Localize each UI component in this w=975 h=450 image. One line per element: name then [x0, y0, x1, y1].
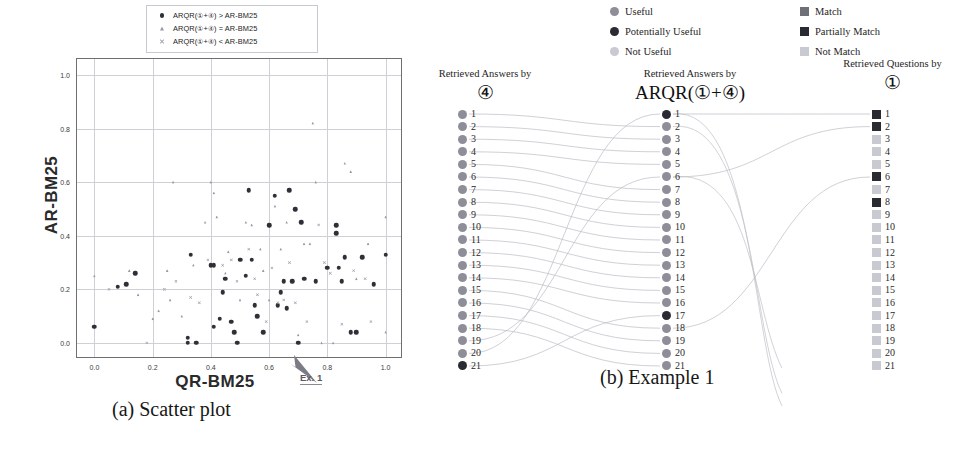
list-item[interactable]: 6: [458, 171, 481, 183]
status-square-icon: [872, 349, 881, 358]
scatter-point: [311, 122, 314, 125]
status-dot-icon: [662, 223, 671, 232]
list-item-number: 18: [885, 323, 895, 333]
gridline-horizontal: [77, 289, 401, 290]
list-item[interactable]: 14: [458, 272, 481, 284]
gridline-vertical: [386, 59, 387, 357]
list-item[interactable]: 3: [662, 133, 685, 145]
list-item[interactable]: 21: [458, 360, 481, 372]
list-item[interactable]: 7: [662, 184, 685, 196]
scatter-point: [185, 341, 190, 346]
list-item[interactable]: 18: [872, 322, 895, 334]
link-curve: [469, 240, 660, 265]
list-item[interactable]: 8: [458, 196, 481, 208]
list-item[interactable]: 1: [662, 108, 685, 120]
list-item[interactable]: 5: [662, 158, 685, 170]
scatter-point: [270, 266, 273, 269]
list-item[interactable]: 20: [872, 347, 895, 359]
list-item[interactable]: 17: [458, 310, 481, 322]
status-square-icon: [872, 311, 881, 320]
scatter-point: [352, 269, 355, 272]
list-item[interactable]: 13: [872, 259, 895, 271]
status-square-icon: [872, 223, 881, 232]
scatter-point: [262, 269, 265, 272]
list-item[interactable]: 13: [662, 259, 685, 271]
list-item[interactable]: 15: [662, 284, 685, 296]
list-item[interactable]: 4: [872, 146, 895, 158]
list-item[interactable]: 6: [662, 171, 685, 183]
list-item[interactable]: 17: [662, 310, 685, 322]
list-item[interactable]: 4: [458, 146, 481, 158]
legend-entry-less: ARQR(①+④) < AR-BM25: [151, 35, 313, 48]
list-item[interactable]: 18: [458, 322, 481, 334]
list-item[interactable]: 2: [458, 121, 481, 133]
list-item-number: 4: [471, 147, 476, 157]
list-item[interactable]: 12: [458, 247, 481, 259]
list-item[interactable]: 15: [458, 284, 481, 296]
list-item[interactable]: 10: [872, 221, 895, 233]
list-item[interactable]: 15: [872, 284, 895, 296]
scatter-point: [288, 261, 291, 264]
list-item[interactable]: 11: [872, 234, 895, 246]
list-item[interactable]: 10: [458, 221, 481, 233]
list-item-number: 18: [471, 323, 481, 333]
column-title-left: ④: [430, 81, 540, 104]
legend-label-equal: ARQR(①+④) = AR-BM25: [173, 24, 258, 33]
list-item[interactable]: 20: [458, 347, 481, 359]
list-item[interactable]: 8: [662, 196, 685, 208]
list-item[interactable]: 2: [872, 121, 895, 133]
list-item[interactable]: 19: [662, 335, 685, 347]
list-item[interactable]: 5: [458, 158, 481, 170]
status-square-icon: [872, 273, 881, 282]
link-curve: [673, 177, 870, 328]
list-item[interactable]: 6: [872, 171, 895, 183]
scatter-point: [384, 216, 387, 219]
list-item[interactable]: 13: [458, 259, 481, 271]
list-item[interactable]: 10: [662, 221, 685, 233]
list-item[interactable]: 14: [662, 272, 685, 284]
list-item[interactable]: 7: [872, 184, 895, 196]
list-item[interactable]: 8: [872, 196, 895, 208]
list-item[interactable]: 4: [662, 146, 685, 158]
list-item[interactable]: 5: [872, 158, 895, 170]
list-item[interactable]: 3: [872, 133, 895, 145]
list-item[interactable]: 12: [872, 247, 895, 259]
list-item[interactable]: 7: [458, 184, 481, 196]
list-item[interactable]: 9: [458, 209, 481, 221]
list-item[interactable]: 19: [458, 335, 481, 347]
list-item[interactable]: 21: [872, 360, 895, 372]
list-item[interactable]: 16: [458, 297, 481, 309]
list-item[interactable]: 17: [872, 310, 895, 322]
scatter-point: [166, 269, 169, 272]
not-useful-dot-icon: [610, 47, 619, 56]
list-item[interactable]: 14: [872, 272, 895, 284]
list-item-number: 18: [675, 323, 685, 333]
list-item[interactable]: 20: [662, 347, 685, 359]
list-item[interactable]: 11: [458, 234, 481, 246]
scatter-point: [229, 319, 234, 324]
example-1-annotation: Ex. 1: [300, 372, 322, 385]
list-item[interactable]: 18: [662, 322, 685, 334]
status-square-icon: [872, 324, 881, 333]
scatter-point: [372, 282, 377, 287]
list-item[interactable]: 16: [872, 297, 895, 309]
list-item[interactable]: 1: [458, 108, 481, 120]
list-item[interactable]: 1: [872, 108, 895, 120]
list-item[interactable]: 12: [662, 247, 685, 259]
list-item[interactable]: 16: [662, 297, 685, 309]
list-item[interactable]: 19: [872, 335, 895, 347]
scatter-point: [174, 280, 177, 283]
x-tick-label: 0.2: [148, 364, 158, 371]
scatter-point: [259, 248, 262, 251]
status-dot-icon: [458, 223, 467, 232]
status-dot-icon: [662, 122, 671, 131]
list-item-number: 17: [675, 311, 685, 321]
list-item[interactable]: 9: [872, 209, 895, 221]
list-item[interactable]: 11: [662, 234, 685, 246]
list-item[interactable]: 3: [458, 133, 481, 145]
status-dot-icon: [458, 160, 467, 169]
list-item[interactable]: 2: [662, 121, 685, 133]
list-item-number: 1: [675, 109, 680, 119]
list-item[interactable]: 9: [662, 209, 685, 221]
list-item-number: 5: [471, 159, 476, 169]
